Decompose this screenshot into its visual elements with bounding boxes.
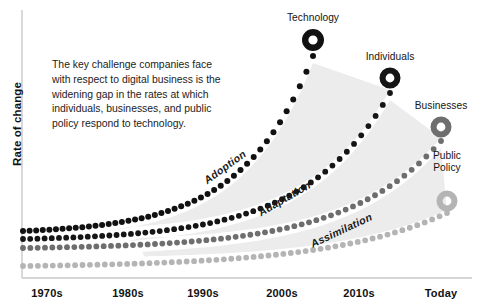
x-tick-label-2010s: 2010s: [343, 287, 375, 299]
series-endpoint-label-public-policy: PublicPolicy: [433, 149, 461, 173]
endpoint-label-line: Individuals: [366, 50, 415, 62]
endpoint-label-line: Technology: [287, 12, 339, 24]
x-tick-label-1970s: 1970s: [31, 287, 63, 299]
x-tick-label-1990s: 1990s: [187, 287, 219, 299]
chart-annotation-text: The key challenge companies face with re…: [52, 58, 232, 132]
x-tick-label-1980s: 1980s: [112, 287, 144, 299]
endpoint-label-line: Public: [433, 149, 461, 161]
series-endpoint-label-technology: Technology: [287, 12, 339, 24]
series-endpoint-label-individuals: Individuals: [366, 50, 415, 62]
rate-of-change-chart: Rate of change 1970s1980s1990s2000s2010s…: [0, 0, 481, 307]
series-endpoint-label-businesses: Businesses: [415, 99, 468, 111]
y-axis-title: Rate of change: [11, 59, 23, 189]
endpoint-label-line: Policy: [433, 161, 461, 173]
x-tick-label-2000s: 2000s: [266, 287, 298, 299]
x-tick-label-today: Today: [425, 287, 458, 299]
endpoint-label-line: Businesses: [415, 99, 468, 111]
